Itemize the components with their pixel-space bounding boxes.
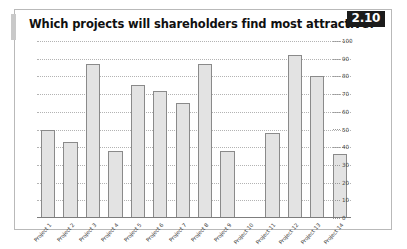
tick-value: 60 — [342, 109, 349, 115]
x-label-slot: Project 3 — [82, 220, 104, 249]
bar-slot — [261, 41, 283, 218]
x-axis-tick-label: Project 1 — [33, 222, 53, 243]
bar-slot — [127, 41, 149, 218]
tick-dash — [333, 59, 340, 60]
tick-value: 30 — [342, 162, 349, 168]
bar — [265, 133, 279, 218]
bar-slot — [104, 41, 126, 218]
tick-value: 70 — [342, 91, 349, 97]
y-axis-tick-label: 20 — [333, 180, 349, 186]
tick-value: 90 — [342, 56, 349, 62]
chart-plot-area: 0102030405060708090100 Project 1Project … — [15, 38, 393, 231]
bar-series — [37, 41, 351, 218]
bar — [86, 64, 100, 218]
tick-dash — [333, 112, 340, 113]
tick-dash — [333, 165, 340, 166]
bar-slot — [284, 41, 306, 218]
chart-title: Which projects will shareholders find mo… — [29, 17, 375, 31]
bar — [310, 76, 324, 218]
bar — [131, 85, 145, 218]
chart-card: Which projects will shareholders find mo… — [14, 9, 392, 230]
bar — [108, 151, 122, 218]
bar — [63, 142, 77, 218]
x-label-slot: Project 2 — [59, 220, 81, 249]
x-label-slot: Project 8 — [194, 220, 216, 249]
tick-value: 50 — [342, 127, 349, 133]
bar — [220, 151, 234, 218]
bar — [288, 55, 302, 218]
y-axis-tick-label: 90 — [333, 56, 349, 62]
bar-slot — [172, 41, 194, 218]
x-axis-labels: Project 1Project 2Project 3Project 4Proj… — [37, 220, 351, 249]
bar — [153, 91, 167, 218]
chart-header: Which projects will shareholders find mo… — [15, 10, 391, 40]
tick-dash — [333, 218, 340, 219]
figure-number-badge: 2.10 — [347, 11, 385, 27]
tick-value: 80 — [342, 73, 349, 79]
y-axis-tick-label: 60 — [333, 109, 349, 115]
x-label-slot: Project 6 — [149, 220, 171, 249]
bar — [176, 103, 190, 218]
tick-value: 10 — [342, 197, 349, 203]
y-axis-tick-label: 10 — [333, 197, 349, 203]
x-label-slot: Project 14 — [328, 220, 350, 249]
y-axis-tick-label: 80 — [333, 73, 349, 79]
tick-value: 20 — [342, 180, 349, 186]
y-axis-tick-label: 40 — [333, 144, 349, 150]
tick-dash — [333, 129, 340, 130]
bar — [198, 64, 212, 218]
y-axis-tick-label: 100 — [333, 38, 353, 44]
bar-slot — [216, 41, 238, 218]
tick-value: 100 — [342, 38, 353, 44]
tick-dash — [333, 41, 340, 42]
bar-slot — [37, 41, 59, 218]
bar-slot — [239, 41, 261, 218]
y-axis-tick-label: 30 — [333, 162, 349, 168]
tick-dash — [333, 183, 340, 184]
y-axis-tick-label: 50 — [333, 127, 349, 133]
tick-dash — [333, 94, 340, 95]
bar-slot — [306, 41, 328, 218]
y-axis-tick-label: 70 — [333, 91, 349, 97]
x-axis-line — [37, 217, 351, 218]
bar-slot — [82, 41, 104, 218]
bar-slot — [59, 41, 81, 218]
tick-dash — [333, 200, 340, 201]
x-label-slot: Project 13 — [306, 220, 328, 249]
x-label-slot: Project 4 — [104, 220, 126, 249]
tick-dash — [333, 147, 340, 148]
x-label-slot: Project 7 — [172, 220, 194, 249]
bar-slot — [149, 41, 171, 218]
plot-canvas — [37, 41, 351, 218]
tick-dash — [333, 76, 340, 77]
bar-slot — [194, 41, 216, 218]
bar — [41, 130, 55, 219]
tick-value: 40 — [342, 144, 349, 150]
x-label-slot: Project 5 — [127, 220, 149, 249]
x-label-slot: Project 1 — [37, 220, 59, 249]
